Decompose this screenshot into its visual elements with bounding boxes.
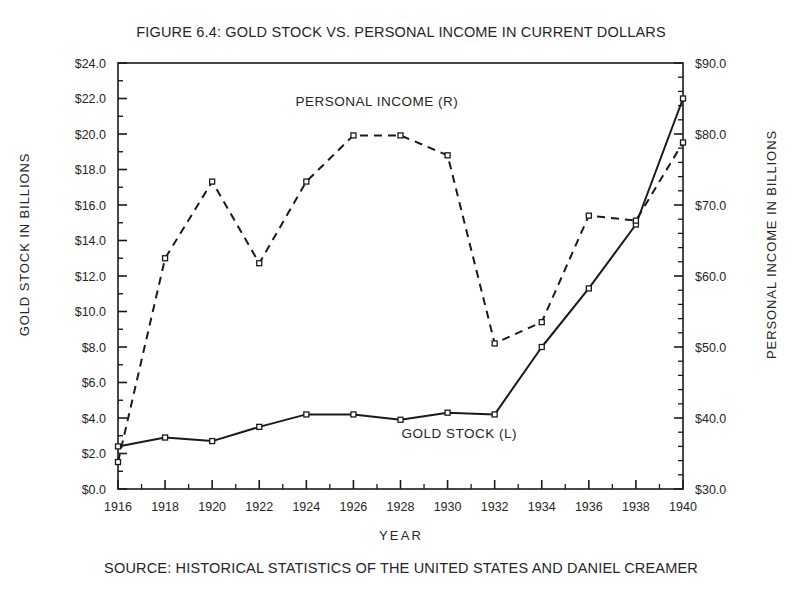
series-1-marker bbox=[586, 286, 591, 291]
y-axis-left-tick-label: $16.0 bbox=[75, 199, 106, 213]
series-1-marker bbox=[116, 444, 121, 449]
y-axis-right-tick-label: $40.0 bbox=[695, 412, 726, 426]
series-1-marker bbox=[492, 412, 497, 417]
series-2-marker bbox=[633, 218, 638, 223]
series-2-marker bbox=[681, 140, 686, 145]
x-axis-tick-label: 1940 bbox=[669, 500, 697, 514]
y-axis-right-tick-label: $90.0 bbox=[695, 57, 726, 71]
x-axis-tick-label: 1924 bbox=[292, 500, 320, 514]
series-2-marker bbox=[163, 256, 168, 261]
series-2-marker bbox=[116, 460, 121, 465]
y-axis-right-tick-label: $30.0 bbox=[695, 483, 726, 497]
series-2-marker bbox=[539, 320, 544, 325]
series-1-marker bbox=[163, 435, 168, 440]
series-2-marker bbox=[351, 133, 356, 138]
series-2-marker bbox=[492, 341, 497, 346]
x-axis-tick-label: 1930 bbox=[434, 500, 462, 514]
x-axis-title: YEAR bbox=[0, 528, 802, 543]
y-axis-left-tick-label: $12.0 bbox=[75, 270, 106, 284]
series-line-1 bbox=[118, 99, 683, 447]
y-axis-left-tick-label: $22.0 bbox=[75, 92, 106, 106]
x-axis-tick-label: 1916 bbox=[104, 500, 132, 514]
series-1-marker bbox=[257, 424, 262, 429]
y-axis-right-tick-label: $80.0 bbox=[695, 128, 726, 142]
series-annotation-1: PERSONAL INCOME (R) bbox=[296, 94, 459, 109]
y-axis-left-tick-label: $18.0 bbox=[75, 163, 106, 177]
chart-plot-area: $0.0$2.0$4.0$6.0$8.0$10.0$12.0$14.0$16.0… bbox=[0, 0, 802, 602]
y-axis-left-tick-label: $20.0 bbox=[75, 128, 106, 142]
y-axis-right-tick-label: $50.0 bbox=[695, 341, 726, 355]
series-1-marker bbox=[304, 412, 309, 417]
y-axis-left-tick-label: $8.0 bbox=[82, 341, 106, 355]
series-2-marker bbox=[445, 153, 450, 158]
y-axis-left-tick-label: $0.0 bbox=[82, 483, 106, 497]
y-axis-left-tick-label: $10.0 bbox=[75, 305, 106, 319]
series-1-marker bbox=[210, 439, 215, 444]
x-axis-tick-label: 1936 bbox=[575, 500, 603, 514]
x-axis-tick-label: 1926 bbox=[340, 500, 368, 514]
series-2-marker bbox=[257, 261, 262, 266]
y-axis-left-tick-label: $2.0 bbox=[82, 447, 106, 461]
series-2-marker bbox=[398, 133, 403, 138]
y-axis-left-tick-label: $6.0 bbox=[82, 376, 106, 390]
x-axis-tick-label: 1938 bbox=[622, 500, 650, 514]
series-1-marker bbox=[398, 417, 403, 422]
y-axis-left-tick-label: $14.0 bbox=[75, 234, 106, 248]
series-1-marker bbox=[445, 410, 450, 415]
x-axis-tick-label: 1932 bbox=[481, 500, 509, 514]
series-2-marker bbox=[586, 213, 591, 218]
series-1-marker bbox=[681, 96, 686, 101]
y-axis-right-tick-label: $70.0 bbox=[695, 199, 726, 213]
y-axis-left-tick-label: $24.0 bbox=[75, 57, 106, 71]
x-axis-tick-label: 1934 bbox=[528, 500, 556, 514]
series-line-2 bbox=[118, 135, 683, 462]
y-axis-left-tick-label: $4.0 bbox=[82, 412, 106, 426]
series-2-marker bbox=[304, 179, 309, 184]
x-axis-tick-label: 1922 bbox=[245, 500, 273, 514]
source-note: SOURCE: HISTORICAL STATISTICS OF THE UNI… bbox=[0, 560, 802, 576]
y-axis-right-tick-label: $60.0 bbox=[695, 270, 726, 284]
x-axis-tick-label: 1920 bbox=[198, 500, 226, 514]
series-1-marker bbox=[351, 412, 356, 417]
series-annotation-2: GOLD STOCK (L) bbox=[402, 426, 518, 441]
series-2-marker bbox=[210, 179, 215, 184]
x-axis-tick-label: 1918 bbox=[151, 500, 179, 514]
series-1-marker bbox=[539, 345, 544, 350]
figure-6-4: FIGURE 6.4: GOLD STOCK VS. PERSONAL INCO… bbox=[0, 0, 802, 602]
x-axis-tick-label: 1928 bbox=[387, 500, 415, 514]
